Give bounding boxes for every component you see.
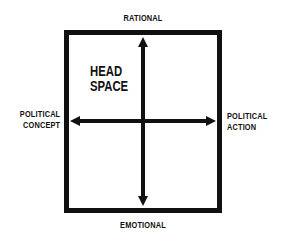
- quadrant-label-line2: SPACE: [90, 79, 128, 94]
- axis-label-right-line2: ACTION: [227, 122, 267, 133]
- quadrant-label-line1: HEAD: [90, 64, 128, 79]
- axis-label-political-action: POLITICAL ACTION: [227, 111, 267, 133]
- axis-label-left-line2: CONCEPT: [20, 120, 60, 131]
- arrowhead-left-icon: [70, 116, 80, 126]
- arrowhead-down-icon: [138, 196, 148, 206]
- axis-label-left-line1: POLITICAL: [20, 109, 60, 120]
- quadrant-label-head-space: HEAD SPACE: [90, 64, 128, 94]
- axis-label-right-line1: POLITICAL: [227, 111, 267, 122]
- axis-label-rational: RATIONAL: [124, 13, 163, 24]
- axis-label-emotional: EMOTIONAL: [120, 220, 166, 231]
- arrowhead-right-icon: [206, 116, 216, 126]
- arrowhead-up-icon: [138, 37, 148, 47]
- axis-label-political-concept: POLITICAL CONCEPT: [20, 109, 60, 131]
